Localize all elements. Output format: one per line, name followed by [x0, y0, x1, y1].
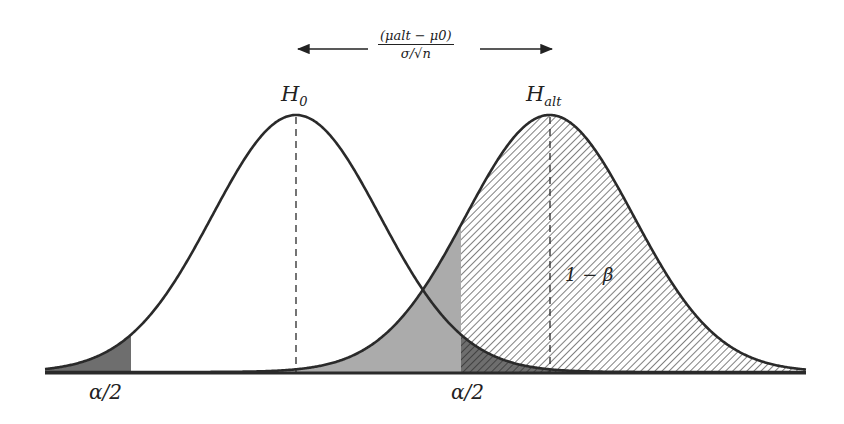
alpha-half-left-label: α/2	[89, 380, 122, 404]
shaded-regions	[45, 115, 806, 372]
formula-denominator: σ/√n	[378, 45, 454, 61]
halt-label: Halt	[526, 82, 561, 109]
power-region	[461, 115, 806, 372]
distribution-plot	[0, 0, 844, 424]
power-label: 1 − β	[565, 264, 613, 285]
mean-shift-formula: (μalt − μ0) σ/√n	[378, 28, 454, 61]
alpha-half-right-label: α/2	[451, 380, 484, 404]
formula-numerator: (μalt − μ0)	[378, 28, 454, 45]
hypothesis-test-figure: (μalt − μ0) σ/√n H0 Halt α/2 α/2 1 − β	[0, 0, 844, 424]
h0-label: H0	[281, 82, 308, 109]
